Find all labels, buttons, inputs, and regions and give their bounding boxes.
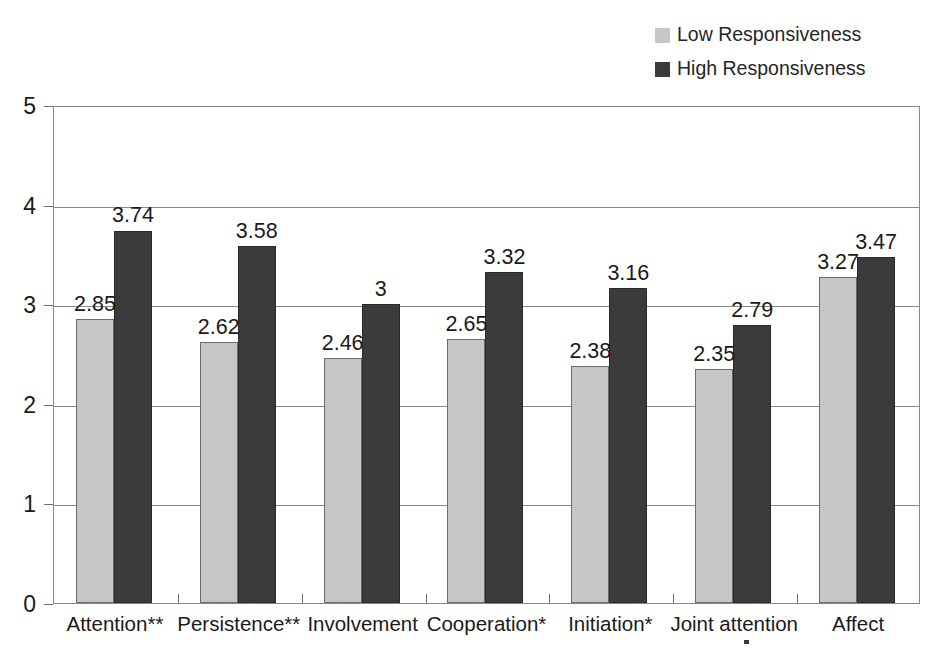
bar-low-4[interactable] — [571, 366, 609, 603]
x-tick-mark — [549, 594, 550, 603]
bar-value-label: 3.32 — [484, 247, 526, 269]
bar-value-label: 3.74 — [112, 205, 154, 227]
y-tick-mark-4 — [44, 206, 53, 207]
legend-swatch-low-responsiveness — [655, 28, 670, 43]
legend-swatch-high-responsiveness — [655, 62, 670, 77]
legend-item-high: High Responsiveness — [655, 52, 945, 86]
y-axis: 012345 — [0, 106, 53, 604]
x-tick-label-5: Joint attention — [670, 614, 798, 635]
x-tick-label-0: Attention** — [66, 614, 163, 635]
bar-group — [797, 107, 921, 603]
bar-value-label: 3.47 — [855, 232, 897, 254]
bar-value-label: 2.38 — [569, 341, 611, 363]
x-tick-label-1: Persistence** — [177, 614, 300, 635]
bar-value-label: 2.35 — [693, 344, 735, 366]
bar-low-1[interactable] — [200, 342, 238, 603]
bar-value-label: 2.85 — [74, 294, 116, 316]
bar-low-3[interactable] — [447, 339, 485, 603]
bar-high-1[interactable] — [238, 246, 276, 603]
bar-group — [178, 107, 302, 603]
bar-high-5[interactable] — [733, 325, 771, 603]
y-tick-label-0: 0 — [23, 593, 36, 616]
bar-group — [54, 107, 178, 603]
x-tick-label-3: Cooperation* — [427, 614, 547, 635]
y-tick-label-2: 2 — [23, 393, 36, 416]
bar-group — [426, 107, 550, 603]
bar-group — [302, 107, 426, 603]
y-tick-mark-0 — [44, 604, 53, 605]
y-tick-mark-1 — [44, 504, 53, 505]
y-tick-mark-3 — [44, 305, 53, 306]
scan-artifact — [744, 640, 749, 644]
bar-high-3[interactable] — [485, 272, 523, 603]
x-tick-label-4: Initiation* — [568, 614, 652, 635]
y-tick-mark-2 — [44, 405, 53, 406]
bar-high-2[interactable] — [362, 304, 400, 603]
bar-value-label: 2.62 — [198, 317, 240, 339]
x-tick-mark — [302, 594, 303, 603]
legend-label-high-responsiveness: High Responsiveness — [677, 59, 866, 79]
bar-value-label: 2.65 — [446, 314, 488, 336]
x-tick-mark — [178, 594, 179, 603]
bar-low-2[interactable] — [324, 358, 362, 603]
bar-value-label: 3.16 — [607, 263, 649, 285]
bar-high-4[interactable] — [609, 288, 647, 603]
bar-high-0[interactable] — [114, 231, 152, 604]
bar-value-label: 2.46 — [322, 333, 364, 355]
chart-plot-area: 2.853.742.623.582.4632.653.322.383.162.3… — [53, 106, 920, 604]
bar-low-5[interactable] — [695, 369, 733, 603]
y-tick-label-4: 4 — [23, 194, 36, 217]
y-tick-label-1: 1 — [23, 493, 36, 516]
legend-item-low: Low Responsiveness — [655, 18, 945, 52]
bar-low-0[interactable] — [76, 319, 114, 603]
x-tick-mark — [426, 594, 427, 603]
x-tick-label-6: Affect — [832, 614, 884, 635]
bar-value-label: 2.79 — [731, 300, 773, 322]
bar-value-label: 3.58 — [236, 221, 278, 243]
y-tick-label-5: 5 — [23, 95, 36, 118]
legend-label-low-responsiveness: Low Responsiveness — [677, 25, 861, 45]
x-tick-mark — [673, 594, 674, 603]
chart-legend: Low Responsiveness High Responsiveness — [655, 18, 945, 86]
y-tick-label-3: 3 — [23, 294, 36, 317]
bar-value-label: 3 — [375, 279, 387, 301]
x-tick-label-2: Involvement — [307, 614, 418, 635]
bar-high-6[interactable] — [857, 257, 895, 603]
x-axis: Attention**Persistence**InvolvementCoope… — [53, 614, 920, 654]
y-tick-mark-5 — [44, 106, 53, 107]
bar-low-6[interactable] — [819, 277, 857, 603]
bar-value-label: 3.27 — [817, 252, 859, 274]
x-tick-mark — [797, 594, 798, 603]
